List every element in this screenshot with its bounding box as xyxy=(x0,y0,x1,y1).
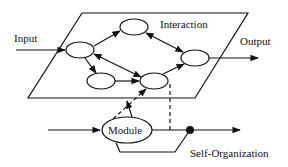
edge-a-d xyxy=(85,58,96,73)
node-b xyxy=(120,19,148,35)
output-label: Output xyxy=(240,36,271,47)
edge-a-b xyxy=(94,31,120,46)
input-label: Input xyxy=(14,33,37,44)
module-label: Module xyxy=(108,125,142,136)
module-to-node-e-dashed xyxy=(113,89,146,119)
node-c xyxy=(181,50,209,66)
edge-b-c xyxy=(146,33,183,52)
self-organization-label: Self-Organization xyxy=(190,148,269,159)
node-a xyxy=(66,42,94,58)
node-e xyxy=(140,73,168,89)
edge-e-c xyxy=(163,64,184,74)
interaction-module-diagram xyxy=(0,0,288,167)
node-d xyxy=(87,73,115,89)
interaction-label: Interaction xyxy=(160,19,208,30)
